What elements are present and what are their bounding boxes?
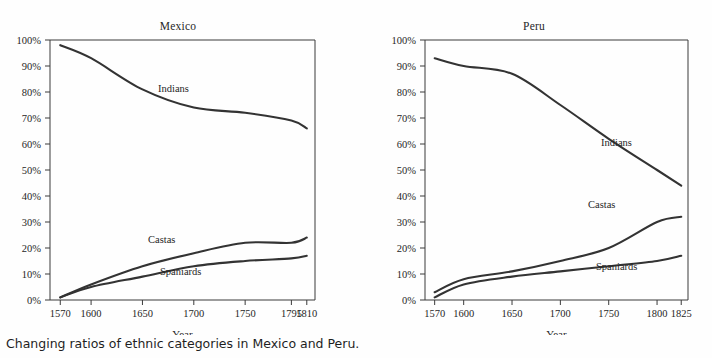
y-tick-label: 10% bbox=[22, 269, 42, 280]
y-tick-label: 100% bbox=[392, 35, 417, 46]
chart-panel-peru: Peru 0%10%20%30%40%50%60%70%80%90%100%15… bbox=[356, 0, 712, 335]
series-label-spaniards: Spaniards bbox=[596, 261, 637, 272]
y-tick-label: 20% bbox=[397, 243, 417, 254]
x-axis-title: Year bbox=[172, 328, 193, 335]
y-tick-label: 40% bbox=[22, 191, 42, 202]
y-tick-label: 20% bbox=[22, 243, 42, 254]
figure-caption: Changing ratios of ethnic categories in … bbox=[6, 336, 359, 351]
x-tick-label: 1700 bbox=[183, 308, 204, 319]
series-line-castas bbox=[435, 217, 682, 292]
x-tick-label: 1650 bbox=[502, 308, 523, 319]
y-tick-label: 30% bbox=[397, 217, 417, 228]
x-axis-title: Year bbox=[546, 328, 567, 335]
x-tick-label: 1810 bbox=[296, 308, 317, 319]
x-tick-label: 1600 bbox=[81, 308, 102, 319]
y-tick-label: 70% bbox=[397, 113, 417, 124]
x-tick-label: 1750 bbox=[235, 308, 256, 319]
y-tick-label: 80% bbox=[22, 87, 42, 98]
series-label-indians: Indians bbox=[601, 137, 632, 148]
y-tick-label: 80% bbox=[397, 87, 417, 98]
series-label-castas: Castas bbox=[148, 234, 175, 245]
x-tick-label: 1570 bbox=[50, 308, 71, 319]
y-tick-label: 0% bbox=[402, 295, 416, 306]
y-tick-label: 100% bbox=[17, 35, 42, 46]
chart-panel-mexico: Mexico 0%10%20%30%40%50%60%70%80%90%100%… bbox=[0, 0, 356, 335]
y-tick-label: 60% bbox=[22, 139, 42, 150]
y-tick-label: 0% bbox=[27, 295, 41, 306]
y-tick-label: 50% bbox=[22, 165, 42, 176]
x-tick-label: 1800 bbox=[647, 308, 668, 319]
chart-svg-mexico: 0%10%20%30%40%50%60%70%80%90%100%1570160… bbox=[0, 0, 356, 335]
y-tick-label: 90% bbox=[397, 61, 417, 72]
y-tick-label: 50% bbox=[397, 165, 417, 176]
chart-svg-peru: 0%10%20%30%40%50%60%70%80%90%100%1570160… bbox=[356, 0, 712, 335]
series-label-spaniards: Spaniards bbox=[160, 266, 201, 277]
y-tick-label: 70% bbox=[22, 113, 42, 124]
x-tick-label: 1600 bbox=[453, 308, 474, 319]
y-tick-label: 30% bbox=[22, 217, 42, 228]
y-tick-label: 60% bbox=[397, 139, 417, 150]
y-tick-label: 40% bbox=[397, 191, 417, 202]
series-label-indians: Indians bbox=[158, 83, 189, 94]
plot-frame bbox=[50, 40, 315, 300]
y-tick-label: 10% bbox=[397, 269, 417, 280]
x-tick-label: 1650 bbox=[132, 308, 153, 319]
series-line-indians bbox=[435, 58, 682, 185]
series-label-castas: Castas bbox=[588, 199, 615, 210]
figure-root: Mexico 0%10%20%30%40%50%60%70%80%90%100%… bbox=[0, 0, 712, 358]
x-tick-label: 1570 bbox=[424, 308, 445, 319]
y-tick-label: 90% bbox=[22, 61, 42, 72]
x-tick-label: 1825 bbox=[671, 308, 692, 319]
x-tick-label: 1700 bbox=[550, 308, 571, 319]
x-tick-label: 1750 bbox=[598, 308, 619, 319]
